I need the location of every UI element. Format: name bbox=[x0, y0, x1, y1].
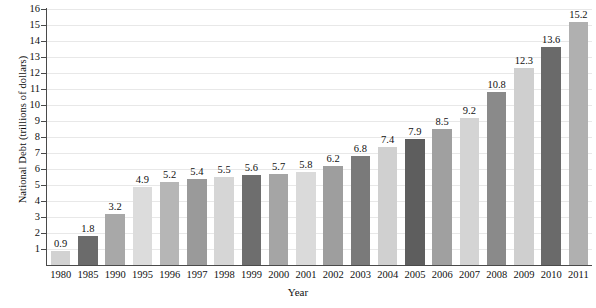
bar: 5.4 bbox=[187, 179, 207, 265]
x-tick-label: 1995 bbox=[129, 269, 156, 281]
bar-value-label: 7.4 bbox=[381, 134, 394, 145]
bar: 7.9 bbox=[405, 139, 425, 265]
bar-value-label: 13.6 bbox=[542, 34, 560, 45]
bar-value-label: 5.6 bbox=[245, 162, 258, 173]
bar-value-label: 15.2 bbox=[569, 9, 587, 20]
x-tick-label: 2002 bbox=[320, 269, 347, 281]
x-tick-label: 2004 bbox=[374, 269, 401, 281]
x-axis-line bbox=[46, 265, 592, 266]
y-tick-label: 11 bbox=[14, 84, 40, 95]
x-tick-label: 2005 bbox=[401, 269, 428, 281]
y-tick-label: 10 bbox=[14, 100, 40, 111]
y-tick-label: 16 bbox=[14, 4, 40, 15]
bar-value-label: 3.2 bbox=[109, 201, 122, 212]
y-tick-label: 15 bbox=[14, 20, 40, 31]
bar-value-label: 6.8 bbox=[354, 143, 367, 154]
y-tick-label: 1 bbox=[14, 244, 40, 255]
y-tick-label: 5 bbox=[14, 180, 40, 191]
bar: 6.8 bbox=[351, 156, 371, 265]
bar-value-label: 5.2 bbox=[163, 169, 176, 180]
x-tick-label: 2010 bbox=[538, 269, 565, 281]
bar: 4.9 bbox=[133, 187, 153, 265]
x-tick-label: 1996 bbox=[156, 269, 183, 281]
bar-value-label: 6.2 bbox=[327, 153, 340, 164]
y-tick-label: 13 bbox=[14, 52, 40, 63]
y-tick-label: 3 bbox=[14, 212, 40, 223]
x-tick-label: 1985 bbox=[74, 269, 101, 281]
bar-value-label: 1.8 bbox=[81, 223, 94, 234]
bar: 5.8 bbox=[296, 172, 316, 265]
bar: 8.5 bbox=[432, 129, 452, 265]
bar: 5.6 bbox=[242, 175, 262, 265]
bar: 9.2 bbox=[460, 118, 480, 265]
y-tick-label: 12 bbox=[14, 68, 40, 79]
bar-value-label: 10.8 bbox=[487, 79, 505, 90]
x-tick-label: 2007 bbox=[456, 269, 483, 281]
bar: 6.2 bbox=[323, 166, 343, 265]
bar: 12.3 bbox=[514, 68, 534, 265]
bar-value-label: 9.2 bbox=[463, 105, 476, 116]
bar: 13.6 bbox=[541, 47, 561, 265]
y-tick-label: 7 bbox=[14, 148, 40, 159]
x-tick-label: 2003 bbox=[347, 269, 374, 281]
bar: 15.2 bbox=[569, 22, 589, 265]
x-tick-label: 1980 bbox=[47, 269, 74, 281]
y-tick-label: 6 bbox=[14, 164, 40, 175]
bar-value-label: 7.9 bbox=[408, 126, 421, 137]
x-tick-label: 1997 bbox=[183, 269, 210, 281]
x-tick-label: 1999 bbox=[238, 269, 265, 281]
bar-value-label: 8.5 bbox=[436, 116, 449, 127]
bar-value-label: 5.8 bbox=[299, 159, 312, 170]
bar-value-label: 5.7 bbox=[272, 161, 285, 172]
x-tick-label: 2009 bbox=[510, 269, 537, 281]
x-tick-label: 2011 bbox=[565, 269, 592, 281]
y-tick-label: 4 bbox=[14, 196, 40, 207]
x-tick-label: 1990 bbox=[102, 269, 129, 281]
bar: 0.9 bbox=[51, 251, 71, 265]
bar: 1.8 bbox=[78, 236, 98, 265]
bar: 7.4 bbox=[378, 147, 398, 265]
bar-value-label: 5.5 bbox=[218, 164, 231, 175]
national-debt-bar-chart: National Debt (trillions of dollars) 161… bbox=[0, 0, 596, 308]
bar: 3.2 bbox=[105, 214, 125, 265]
bar: 5.2 bbox=[160, 182, 180, 265]
y-tick-label: 8 bbox=[14, 132, 40, 143]
y-tick-label: 14 bbox=[14, 36, 40, 47]
bar: 5.7 bbox=[269, 174, 289, 265]
y-tick-label: 2 bbox=[14, 228, 40, 239]
bar-value-label: 4.9 bbox=[136, 174, 149, 185]
bar: 10.8 bbox=[487, 92, 507, 265]
plot-area: 0.91.83.24.95.25.45.55.65.75.86.26.87.47… bbox=[47, 9, 592, 265]
x-tick-label: 2006 bbox=[429, 269, 456, 281]
x-tick-label: 1998 bbox=[211, 269, 238, 281]
x-tick-label: 2008 bbox=[483, 269, 510, 281]
x-tick-label: 2000 bbox=[265, 269, 292, 281]
bar-value-label: 12.3 bbox=[515, 55, 533, 66]
x-axis-title: Year bbox=[0, 286, 596, 298]
bar: 5.5 bbox=[214, 177, 234, 265]
x-tick-label: 2001 bbox=[292, 269, 319, 281]
bar-value-label: 0.9 bbox=[54, 238, 67, 249]
y-tick-label: 9 bbox=[14, 116, 40, 127]
bar-value-label: 5.4 bbox=[190, 166, 203, 177]
